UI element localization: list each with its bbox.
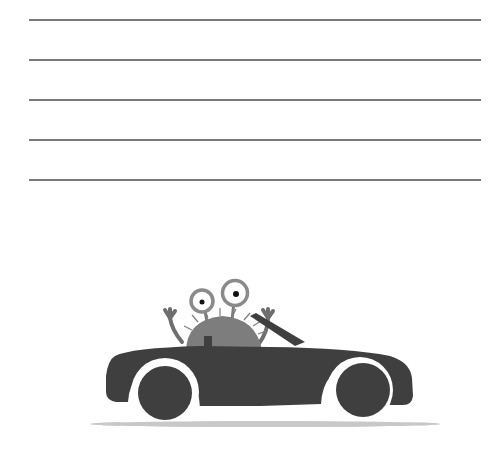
monster-eye-left xyxy=(191,290,213,312)
car-monster-illustration xyxy=(0,0,501,452)
rear-wheel xyxy=(336,363,390,417)
car-seat-bump xyxy=(204,336,212,348)
front-wheel xyxy=(138,366,192,420)
monster-left-arm xyxy=(165,309,182,342)
monster-eye-right xyxy=(223,281,248,306)
